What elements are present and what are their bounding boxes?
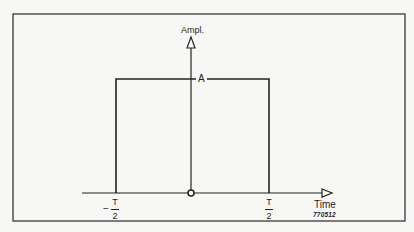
origin-marker-icon — [188, 190, 194, 196]
amplitude-axis-arrow-icon — [187, 37, 195, 48]
left-edge-label: T 2 — [111, 197, 119, 221]
rectangular-pulse — [116, 79, 269, 193]
right-edge-denominator: 2 — [265, 211, 272, 221]
figure-number: 770512 — [313, 211, 336, 218]
right-edge-label: T 2 — [265, 197, 273, 221]
amplitude-value-label: A — [196, 73, 207, 84]
time-axis-label: Time — [314, 199, 336, 210]
pulse-diagram — [0, 0, 414, 232]
time-axis-arrow-icon — [322, 189, 332, 197]
right-edge-numerator: T — [265, 197, 273, 207]
negative-sign: − — [103, 203, 109, 214]
amplitude-axis-label: Ampl. — [181, 25, 204, 35]
figure-frame — [13, 14, 405, 221]
left-edge-denominator: 2 — [111, 211, 118, 221]
fraction-bar — [111, 209, 119, 210]
fraction-bar — [265, 209, 273, 210]
left-edge-numerator: T — [111, 197, 119, 207]
